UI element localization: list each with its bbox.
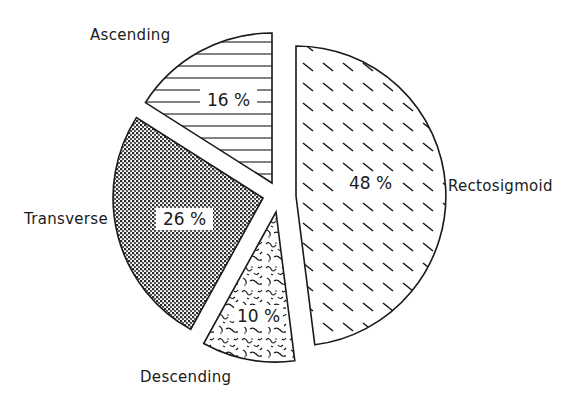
label-transverse: Transverse — [24, 210, 108, 228]
slice-rectosigmoid — [296, 46, 446, 345]
value-descending: 10 % — [234, 305, 283, 327]
value-rectosigmoid: 48 % — [342, 172, 399, 194]
value-transverse: 26 % — [156, 208, 213, 230]
pie-chart — [0, 0, 578, 402]
label-rectosigmoid: Rectosigmoid — [448, 177, 553, 195]
label-descending: Descending — [140, 368, 231, 386]
label-ascending: Ascending — [90, 26, 170, 44]
value-ascending: 16 % — [200, 89, 257, 111]
